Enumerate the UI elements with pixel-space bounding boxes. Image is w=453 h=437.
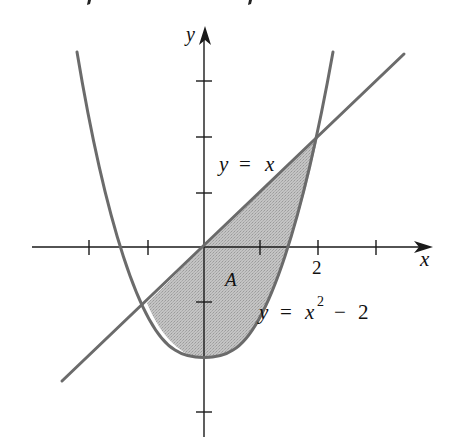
- x-axis-label: x: [419, 247, 430, 271]
- y-axis-arrow-icon: [199, 26, 211, 45]
- svg-text:y: y: [257, 300, 269, 324]
- y-axis-label: y: [184, 23, 195, 46]
- svg-text:−: −: [334, 300, 346, 324]
- x-tick-label-2: 2: [312, 257, 322, 278]
- svg-text:x: x: [304, 300, 315, 324]
- svg-text:=: =: [280, 300, 292, 324]
- clipped-caption-remnant: [87, 0, 252, 5]
- svg-text:y: y: [217, 152, 229, 176]
- region-between-curves-diagram: y x 2 y = x A y = x 2 − 2: [0, 0, 453, 437]
- y-axis: [196, 32, 212, 437]
- region-label-a: A: [223, 269, 237, 290]
- svg-text:x: x: [264, 152, 275, 176]
- svg-text:=: =: [239, 152, 251, 176]
- line-equation-label: y = x: [217, 152, 275, 176]
- svg-text:2: 2: [317, 294, 324, 309]
- svg-text:2: 2: [358, 300, 369, 324]
- parabola-equation-label: y = x 2 − 2: [257, 294, 369, 324]
